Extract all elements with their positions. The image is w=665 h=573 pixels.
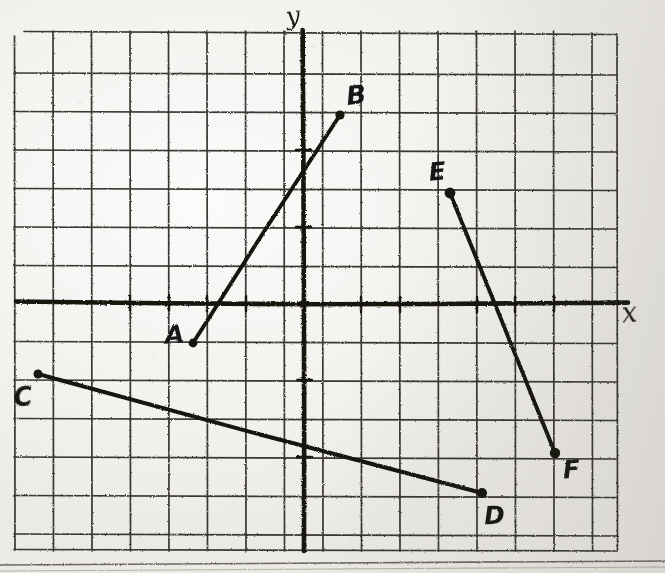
grid-vertical-lines (15, 31, 618, 551)
point-dot-d (477, 488, 487, 498)
point-label-a: A (162, 319, 185, 349)
segment-ab (193, 115, 340, 343)
point-label-c: C (12, 381, 35, 413)
graph-paper-grid (14, 31, 618, 551)
point-dot-b (335, 110, 344, 119)
coordinate-plane-figure: A B C D E F y x (0, 0, 665, 573)
y-axis (303, 30, 305, 551)
scanned-worksheet-image: A B C D E F y x (0, 0, 665, 573)
segment-cd (38, 374, 482, 493)
segment-ef (450, 193, 555, 453)
point-label-b: B (345, 79, 368, 111)
y-axis-label: y (283, 0, 303, 31)
grid-horizontal-lines (14, 32, 617, 552)
point-dot-a (189, 339, 198, 348)
x-axis-label: x (620, 296, 638, 328)
point-dot-c (34, 370, 43, 379)
origin-point (300, 300, 308, 308)
point-label-e: E (427, 156, 447, 186)
point-label-d: D (483, 500, 505, 530)
axis-labels: y x (283, 0, 638, 329)
point-dot-e (445, 188, 456, 199)
page-edge-line (0, 561, 665, 571)
point-dot-f (550, 448, 560, 458)
point-label-f: F (562, 454, 581, 484)
x-axis (16, 302, 628, 305)
